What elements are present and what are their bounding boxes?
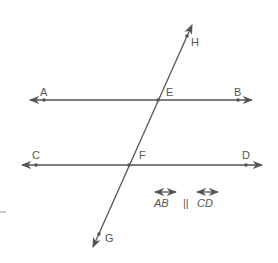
label-e: E (166, 86, 173, 98)
statement-ab: AB (153, 197, 169, 209)
label-a: A (40, 86, 48, 98)
transversal-stroke (93, 25, 192, 247)
label-f: F (139, 149, 146, 161)
label-c: C (32, 149, 40, 161)
point-b (236, 98, 240, 102)
point-a (42, 98, 46, 102)
label-b: B (234, 86, 241, 98)
point-d (244, 163, 248, 167)
line-ab (30, 98, 252, 102)
label-g: G (105, 232, 114, 244)
label-h: H (191, 36, 199, 48)
parallel-statement: AB || CD (153, 192, 218, 209)
transversal-gh (93, 25, 192, 247)
label-d: D (242, 149, 250, 161)
parallel-lines-diagram: A B E C D F H G AB || CD (0, 0, 278, 263)
statement-parallel-symbol: || (183, 197, 189, 209)
point-g (97, 232, 101, 236)
statement-cd: CD (197, 197, 213, 209)
point-h (185, 34, 189, 38)
point-c (34, 163, 38, 167)
line-cd (22, 163, 262, 167)
